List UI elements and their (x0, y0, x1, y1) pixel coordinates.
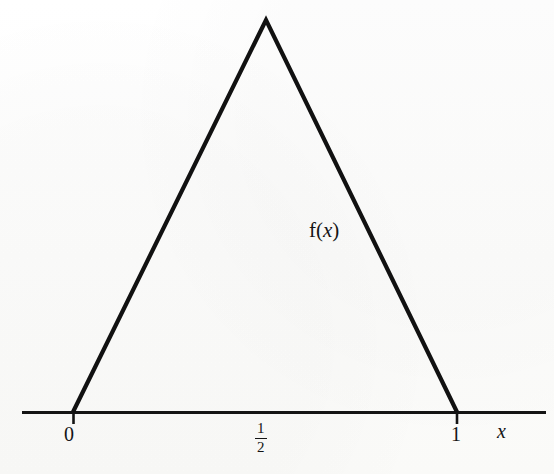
figure-canvas: 0 1 2 1 x f(x) (0, 0, 554, 474)
fraction-denominator: 2 (255, 439, 267, 456)
fraction-numerator: 1 (255, 421, 267, 439)
curve-label-fx: f(x) (309, 220, 339, 241)
plot-area (0, 0, 554, 474)
curve-label-variable: x (323, 218, 332, 242)
curve-label-suffix: ) (332, 218, 339, 242)
density-curve-triangle (73, 20, 457, 412)
tick-label-zero: 0 (64, 424, 74, 444)
tick-label-one-half: 1 2 (255, 421, 267, 456)
fraction-one-half: 1 2 (255, 421, 267, 456)
curve-label-prefix: f( (309, 218, 323, 242)
x-axis-label: x (497, 421, 506, 441)
tick-label-one: 1 (451, 424, 461, 444)
